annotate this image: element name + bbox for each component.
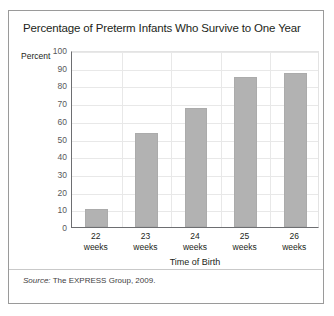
plot-area (71, 51, 319, 228)
bars-layer (72, 52, 318, 227)
x-tick-label: 25weeks (220, 231, 270, 253)
y-tick-label: 30 (37, 171, 67, 180)
x-tick-week-word: weeks (269, 242, 319, 253)
y-tick-label: 70 (37, 100, 67, 109)
x-tick-label: 26weeks (269, 231, 319, 253)
y-tick-label: 20 (37, 189, 67, 198)
y-tick-label: 60 (37, 118, 67, 127)
source-keyword: Source: (23, 276, 51, 285)
x-tick-week-word: weeks (220, 242, 270, 253)
source-note: Source: The EXPRESS Group, 2009. (23, 276, 155, 285)
source-divider (9, 269, 323, 270)
x-tick-week-number: 24 (170, 231, 220, 242)
y-tick-label: 40 (37, 153, 67, 162)
bar-25-weeks (234, 77, 257, 227)
y-tick-label: 50 (37, 136, 67, 145)
x-tick-week-number: 26 (269, 231, 319, 242)
x-tick-label: 22weeks (71, 231, 121, 253)
y-tick-label: 0 (37, 224, 67, 233)
x-tick-week-number: 25 (220, 231, 270, 242)
y-tick-label: 100 (37, 47, 67, 56)
x-tick-week-number: 23 (121, 231, 171, 242)
figure-frame: Percentage of Preterm Infants Who Surviv… (8, 10, 324, 304)
bar-24-weeks (185, 108, 208, 227)
x-tick-week-word: weeks (170, 242, 220, 253)
bar-23-weeks (135, 133, 158, 227)
chart-plot-wrapper: Percent 1009080706050403020100 22weeks23… (9, 11, 325, 305)
x-tick-label: 23weeks (121, 231, 171, 253)
x-tick-week-word: weeks (71, 242, 121, 253)
bar-26-weeks (284, 73, 307, 227)
y-tick-label: 90 (37, 65, 67, 74)
y-tick-label: 80 (37, 82, 67, 91)
x-tick-label: 24weeks (170, 231, 220, 253)
y-tick-label: 10 (37, 206, 67, 215)
x-axis-title: Time of Birth (71, 257, 319, 267)
source-text: The EXPRESS Group, 2009. (51, 276, 156, 285)
bar-22-weeks (85, 209, 108, 227)
y-axis-tick-labels: 1009080706050403020100 (37, 51, 67, 228)
x-tick-week-word: weeks (121, 242, 171, 253)
x-tick-week-number: 22 (71, 231, 121, 242)
